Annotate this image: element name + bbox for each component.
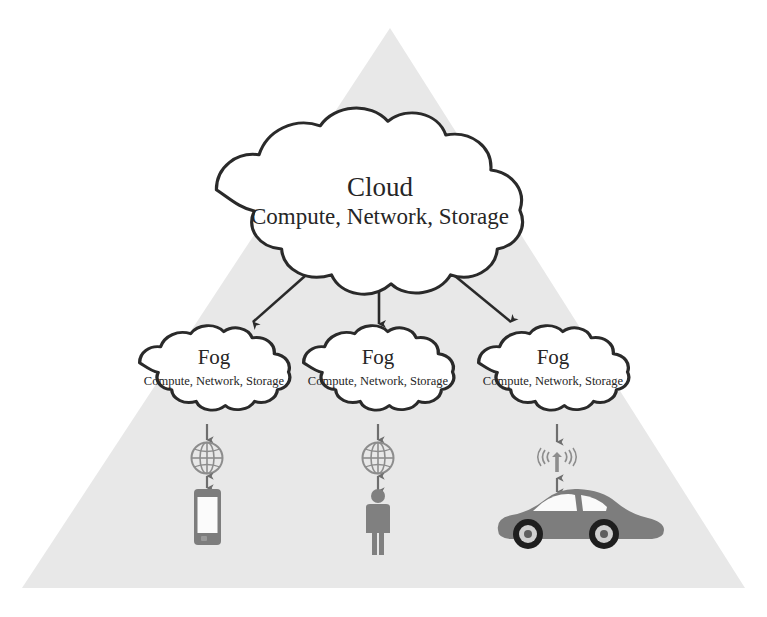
globe-icon [363, 443, 394, 474]
globe-icon [192, 443, 223, 474]
cloud-label: Cloud [347, 172, 414, 202]
cloud-services-label: Compute, Network, Storage [251, 204, 509, 229]
fog-right-services-label: Compute, Network, Storage [483, 374, 624, 388]
fog-center-services-label: Compute, Network, Storage [308, 374, 449, 388]
fog-right-label: Fog [537, 345, 570, 369]
fog-center-label: Fog [362, 345, 395, 369]
fog-left-services-label: Compute, Network, Storage [144, 374, 285, 388]
fog-left-label: Fog [198, 345, 231, 369]
smartphone-icon [194, 489, 221, 545]
diagram-canvas: Cloud Compute, Network, Storage Fog Comp… [0, 0, 767, 617]
